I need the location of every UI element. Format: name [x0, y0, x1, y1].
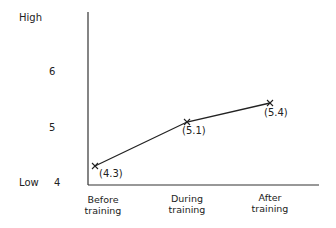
point-label: (5.4) [264, 107, 288, 119]
y-tick-6: 6 [49, 66, 55, 78]
category-line: training [240, 203, 300, 214]
category-line: training [73, 205, 133, 216]
y-tick-5: 5 [49, 122, 55, 134]
point-label: (4.3) [99, 168, 123, 180]
category-line: After [240, 192, 300, 203]
x-category-during: During training [157, 193, 217, 215]
category-line: During [157, 193, 217, 204]
y-tick-4: 4 [54, 177, 60, 189]
category-line: training [157, 204, 217, 215]
y-label-high: High [19, 12, 42, 24]
category-line: Before [73, 194, 133, 205]
y-label-low: Low [19, 177, 39, 189]
x-category-after: After training [240, 192, 300, 214]
point-label: (5.1) [182, 125, 206, 137]
x-category-before: Before training [73, 194, 133, 216]
x-marker-icon [92, 163, 98, 169]
